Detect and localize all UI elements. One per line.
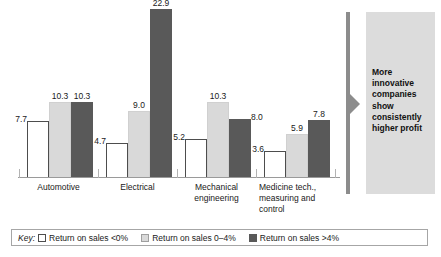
plot-area: 7.7 10.3 10.3 4.7 9.0 22.9 5.2 [18,8,338,178]
label-line: Electrical [98,182,177,193]
bar-mechanical-return-0-4: 10.3 [207,102,229,178]
axis-tick [256,169,257,178]
bar-value-label: 10.3 [210,91,227,101]
legend-item-label: Return on sales 0–4% [152,233,236,243]
x-axis-label-automotive: Automotive [19,182,98,193]
bar-chart-figure: 7.7 10.3 10.3 4.7 9.0 22.9 5.2 [0,0,441,257]
bar-value-label: 5.9 [291,123,303,133]
right-arrow-icon [346,12,362,194]
legend-item-label: Return on sales >4% [260,233,339,243]
x-axis-baseline [18,177,340,178]
legend-key-label: Key: [18,233,35,243]
axis-tick [19,169,20,178]
arrow-head [349,93,360,115]
bar-automotive-return-gt-4: 10.3 [71,102,93,178]
legend-item-return-0-4: Return on sales 0–4% [141,233,236,243]
dark-gray-square-icon [249,234,257,242]
bar-group-mechanical-engineering: 5.2 10.3 8.0 [185,8,253,178]
axis-tick [335,169,336,178]
bar-group-medicine-tech: 3.6 5.9 7.8 [264,8,332,178]
x-axis-label-mechanical-engineering: Mechanical engineering [177,182,256,204]
bar-group-electrical: 4.7 9.0 22.9 [106,8,174,178]
label-line: measuring and [259,193,341,204]
bar-value-label: 3.6 [252,144,264,154]
label-line: Automotive [19,182,98,193]
bar-automotive-return-0-4: 10.3 [49,102,71,178]
bar-value-label: 10.3 [52,91,69,101]
bar-electrical-return-gt-4: 22.9 [150,9,172,178]
bar-value-label: 4.7 [94,136,106,146]
bar-value-label: 22.9 [153,0,170,8]
legend-item-return-gt-4: Return on sales >4% [249,233,339,243]
bar-automotive-return-lt-0: 7.7 [27,121,49,178]
callout-text: More innovative companies show consisten… [372,67,434,134]
bar-value-label: 5.2 [173,132,185,142]
axis-tick [98,169,99,178]
label-line: engineering [177,193,256,204]
chart-legend: Key: Return on sales <0% Return on sales… [11,229,428,246]
axis-tick [177,169,178,178]
bar-electrical-return-lt-0: 4.7 [106,143,128,178]
bar-mechanical-return-lt-0: 5.2 [185,139,207,178]
x-axis-label-medicine-tech: Medicine tech., measuring and control [259,182,341,215]
bar-medicine-return-0-4: 5.9 [286,134,308,178]
white-square-icon [38,234,46,242]
light-gray-square-icon [141,234,149,242]
bar-value-label: 9.0 [133,100,145,110]
bar-value-label: 8.0 [251,112,263,122]
bar-value-label: 7.8 [313,109,325,119]
x-axis-label-electrical: Electrical [98,182,177,193]
bar-electrical-return-0-4: 9.0 [128,111,150,178]
label-line: Mechanical [177,182,256,193]
bar-mechanical-return-gt-4: 8.0 [229,119,251,178]
callout-panel: More innovative companies show consisten… [366,12,435,194]
bar-value-label: 7.7 [15,114,27,124]
bar-medicine-return-gt-4: 7.8 [308,120,330,178]
bar-group-automotive: 7.7 10.3 10.3 [27,8,95,178]
legend-item-return-lt-0: Return on sales <0% [38,233,128,243]
bar-value-label: 10.3 [74,91,91,101]
label-line: Medicine tech., [259,182,341,193]
legend-item-label: Return on sales <0% [49,233,128,243]
bar-medicine-return-lt-0: 3.6 [264,151,286,178]
label-line: control [259,204,341,215]
